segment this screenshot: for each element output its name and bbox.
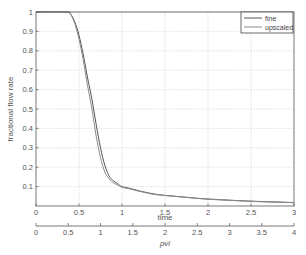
- y-tick-label: 0.2: [23, 163, 33, 172]
- secondary-x-tick-label: 2: [163, 228, 167, 237]
- legend: fine upscaled: [241, 12, 293, 33]
- y-tick-label: 1: [29, 8, 33, 17]
- x-axis-title: time: [157, 213, 173, 222]
- secondary-x-tick-label: 3: [227, 228, 231, 237]
- secondary-x-tick-label: 1.5: [128, 228, 138, 237]
- x-tick-label: 2.5: [246, 208, 256, 217]
- y-tick-label: 0.4: [23, 124, 33, 133]
- y-tick-label: 0.1: [23, 182, 33, 191]
- x-tick-label: 2: [206, 208, 210, 217]
- secondary-x-tick-label: 4: [292, 228, 296, 237]
- secondary-x-tick-label: 3.5: [257, 228, 267, 237]
- secondary-x-tick-label: 1: [98, 228, 102, 237]
- y-tick-label: 0.5: [23, 105, 33, 114]
- plot-area: [36, 12, 294, 206]
- fractional-flow-chart: 0.10.20.30.40.50.60.70.80.91 00.511.522.…: [0, 0, 306, 255]
- legend-label-upscaled: upscaled: [265, 24, 293, 32]
- secondary-x-tick-label: 2.5: [192, 228, 202, 237]
- secondary-x-axis-title: pvi: [159, 239, 170, 248]
- secondary-x-tick-label: 0: [34, 228, 38, 237]
- y-tick-label: 0.7: [23, 66, 33, 75]
- x-tick-label: 1: [120, 208, 124, 217]
- y-tick-label: 0.3: [23, 143, 33, 152]
- secondary-x-tick-label: 0.5: [63, 228, 73, 237]
- x-tick-label: 0: [34, 208, 38, 217]
- x-tick-label: 3: [292, 208, 296, 217]
- legend-label-fine: fine: [265, 15, 276, 22]
- y-tick-label: 0.9: [23, 27, 33, 36]
- x-tick-label: 0.5: [74, 208, 84, 217]
- y-tick-label: 0.6: [23, 85, 33, 94]
- y-axis-title: fractional flow rate: [6, 76, 15, 141]
- y-tick-label: 0.8: [23, 46, 33, 55]
